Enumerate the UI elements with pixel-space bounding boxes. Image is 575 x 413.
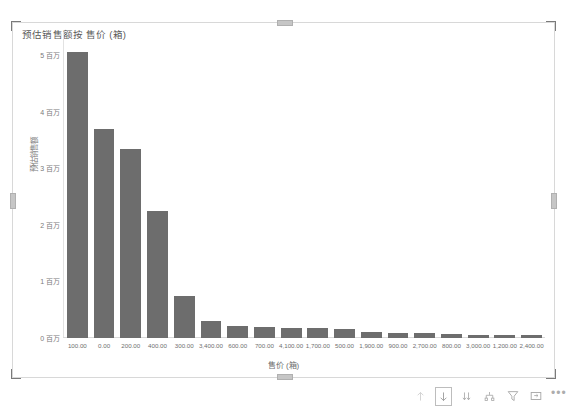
x-axis-tick-5: 3,400.00: [198, 340, 225, 354]
bar[interactable]: [307, 328, 328, 338]
x-axis-tick-1: 0.00: [91, 340, 118, 354]
filter-icon[interactable]: [505, 387, 521, 406]
bar-slot[interactable]: [64, 44, 91, 338]
drill-down-icon[interactable]: [435, 387, 451, 406]
bar-slot[interactable]: [171, 44, 198, 338]
bar-slot[interactable]: [358, 44, 385, 338]
x-axis-tick-12: 900.00: [385, 340, 412, 354]
y-axis-tick-3: 2 百万: [40, 220, 60, 230]
bar-slot[interactable]: [278, 44, 305, 338]
visual-header-toolbar[interactable]: •••: [412, 384, 567, 408]
chart-title: 预估销售额按 售价 (箱): [22, 27, 126, 41]
resize-handle-right[interactable]: [551, 193, 557, 209]
x-axis-tick-10: 500.00: [331, 340, 358, 354]
x-axis-tick-8: 4,100.00: [278, 340, 305, 354]
x-axis-tick-11: 1,900.00: [358, 340, 385, 354]
y-axis-tick-1: 4 百万: [40, 107, 60, 117]
bar-slot[interactable]: [518, 44, 545, 338]
bar-slot[interactable]: [117, 44, 144, 338]
bar[interactable]: [414, 333, 435, 338]
bar-slot[interactable]: [91, 44, 118, 338]
selection-corner-top-right[interactable]: [546, 21, 556, 31]
selection-corner-bottom-right[interactable]: [546, 369, 556, 379]
selection-corner-top-left[interactable]: [11, 21, 21, 31]
x-axis-tick-13: 2,700.00: [411, 340, 438, 354]
bar-slot[interactable]: [304, 44, 331, 338]
bar[interactable]: [201, 321, 222, 338]
bar-slot[interactable]: [411, 44, 438, 338]
y-axis-tick-2: 3 百万: [40, 163, 60, 173]
focus-mode-icon[interactable]: [528, 387, 544, 406]
drill-up-icon[interactable]: [412, 387, 428, 406]
x-axis-tick-3: 400.00: [144, 340, 171, 354]
bar[interactable]: [361, 332, 382, 338]
bar-slot[interactable]: [224, 44, 251, 338]
resize-handle-top[interactable]: [277, 20, 293, 26]
bar[interactable]: [281, 328, 302, 338]
x-axis-tick-7: 700.00: [251, 340, 278, 354]
bar[interactable]: [494, 335, 515, 338]
bar[interactable]: [254, 327, 275, 338]
plot-area: 5 百万4 百万3 百万2 百万1 百万0 百万: [64, 44, 545, 338]
resize-handle-bottom[interactable]: [277, 374, 293, 380]
bar-slot[interactable]: [492, 44, 519, 338]
resize-handle-left[interactable]: [10, 193, 16, 209]
bar-slot[interactable]: [438, 44, 465, 338]
x-axis-tick-9: 1,700.00: [304, 340, 331, 354]
chart-visual-container[interactable]: 预估销售额按 售价 (箱) 预估销售额 5 百万4 百万3 百万2 百万1 百万…: [12, 22, 555, 378]
bar[interactable]: [227, 326, 248, 338]
bar[interactable]: [147, 211, 168, 338]
bar-slot[interactable]: [251, 44, 278, 338]
bar-series[interactable]: [64, 44, 545, 338]
x-axis-tick-2: 200.00: [117, 340, 144, 354]
bar-slot[interactable]: [144, 44, 171, 338]
bar-slot[interactable]: [465, 44, 492, 338]
x-axis-tick-6: 600.00: [224, 340, 251, 354]
x-axis-title: 售价 (箱): [12, 359, 555, 370]
more-options-icon[interactable]: •••: [551, 387, 567, 406]
y-axis-title: 预估销售额: [28, 137, 39, 172]
bar[interactable]: [334, 329, 355, 338]
bar[interactable]: [67, 52, 88, 338]
x-axis-tick-0: 100.00: [64, 340, 91, 354]
y-axis-tick-0: 5 百万: [40, 50, 60, 60]
bar[interactable]: [441, 334, 462, 338]
y-axis-tick-5: 0 百万: [40, 333, 60, 343]
bar[interactable]: [521, 335, 542, 338]
x-axis-tick-labels: 100.000.00200.00400.00300.003,400.00600.…: [64, 340, 545, 354]
bar[interactable]: [120, 149, 141, 338]
bar-slot[interactable]: [385, 44, 412, 338]
bar[interactable]: [174, 296, 195, 338]
drill-hierarchy-icon[interactable]: [482, 387, 498, 406]
expand-all-icon[interactable]: [459, 387, 475, 406]
x-axis-tick-16: 1,200.00: [492, 340, 519, 354]
y-axis-tick-4: 1 百万: [40, 276, 60, 286]
bar-slot[interactable]: [331, 44, 358, 338]
bar[interactable]: [388, 333, 409, 338]
bar[interactable]: [468, 335, 489, 339]
x-axis-tick-4: 300.00: [171, 340, 198, 354]
bar[interactable]: [94, 129, 115, 338]
selection-corner-bottom-left[interactable]: [11, 369, 21, 379]
x-axis-tick-17: 2,400.00: [518, 340, 545, 354]
bar-slot[interactable]: [198, 44, 225, 338]
x-axis-tick-15: 3,000.00: [465, 340, 492, 354]
x-axis-tick-14: 800.00: [438, 340, 465, 354]
more-options-glyph: •••: [551, 389, 567, 403]
